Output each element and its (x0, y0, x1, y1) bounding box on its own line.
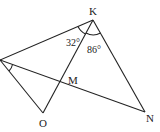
angle-arc-p (9, 65, 13, 72)
label-k: K (89, 5, 97, 17)
label-n: N (146, 112, 154, 124)
angle-arc-86 (86, 33, 101, 35)
geometry-diagram: K M O N 32° 86° (0, 0, 160, 132)
segment-kn (93, 20, 145, 112)
label-m: M (68, 74, 78, 86)
angle-label-86: 86° (87, 44, 101, 55)
angle-arc-32 (78, 27, 86, 35)
angle-label-32: 32° (66, 37, 80, 48)
label-o: O (39, 117, 47, 129)
